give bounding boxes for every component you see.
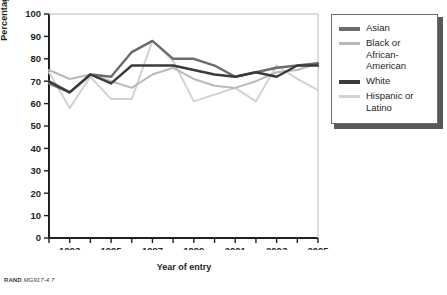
figure-container: 0102030405060708090100199319951997199920… [0,0,447,295]
source-note-publisher: RAND [4,277,22,283]
y-axis-tick-label: 100 [25,8,41,19]
x-axis-tick-label: 1997 [142,245,163,250]
y-axis-tick-label: 40 [30,143,41,154]
x-axis-tick-label: 1995 [101,245,123,250]
legend-swatch-icon [339,80,360,84]
legend-item: Asian [338,22,431,34]
y-axis-tick-label: 30 [30,165,41,176]
y-axis-tick-label: 80 [30,53,41,64]
chart-plot-area: 0102030405060708090100199319951997199920… [0,0,330,250]
source-note: RAND MG917-4.7 [4,277,54,283]
legend-swatch-icon [339,42,360,45]
legend-item-label: Asian [366,22,390,34]
y-axis-tick-label: 0 [36,232,41,243]
y-axis-tick-label: 60 [30,98,41,109]
x-axis-tick-label: 2001 [225,245,247,250]
x-axis-label: Year of entry [49,262,319,272]
line-chart-svg: 0102030405060708090100199319951997199920… [0,0,330,250]
legend-swatch-icon [339,27,360,31]
legend-item: White [338,75,431,87]
legend-item-label: White [366,75,390,87]
legend-item-label: Black or African- American [366,37,406,72]
y-axis-tick-label: 50 [30,120,41,131]
chart-legend: AsianBlack or African- AmericanWhiteHisp… [331,14,438,124]
y-axis-tick-label: 70 [30,76,41,87]
x-axis-tick-label: 2003 [266,245,287,250]
y-axis-tick-label: 20 [30,188,41,199]
legend-item-label: Hispanic or Latino [366,90,414,113]
x-axis-tick-label: 1999 [183,245,204,250]
x-axis-tick-label: 1993 [59,245,80,250]
x-axis-tick-label: 2005 [307,245,329,250]
y-axis-label: Percentage [0,0,9,76]
y-axis-tick-label: 90 [30,31,41,42]
legend-item: Hispanic or Latino [338,90,431,113]
legend-item: Black or African- American [338,37,431,72]
y-axis-tick-label: 10 [30,210,41,221]
legend-swatch-icon [339,95,360,98]
source-note-code: MG917-4.7 [24,277,55,283]
